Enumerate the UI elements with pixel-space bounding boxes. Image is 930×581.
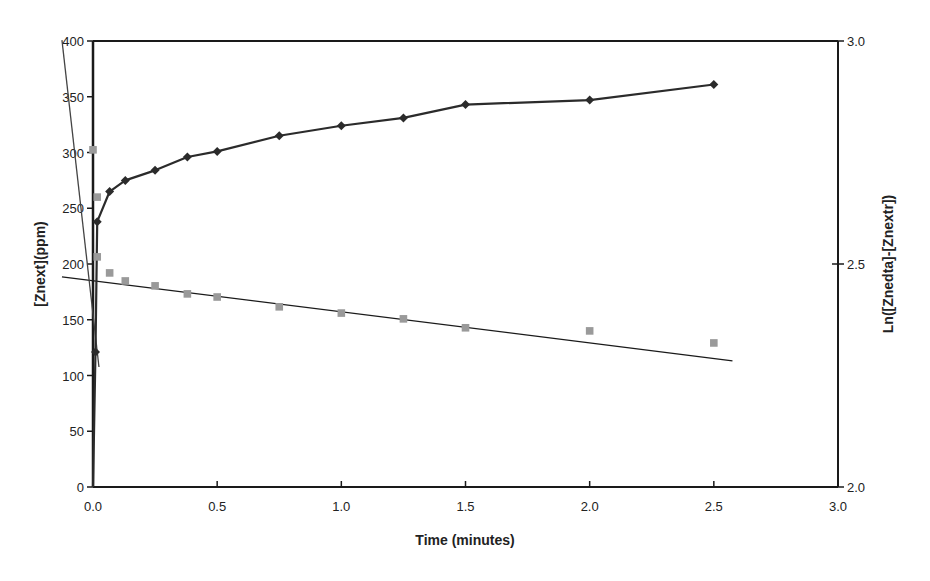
y-tick-label: 200 [62, 257, 84, 272]
square-marker [89, 146, 97, 154]
square-marker [106, 269, 114, 277]
y-tick-label: 50 [70, 424, 84, 439]
y-axis-left-title: [Znext](ppm) [32, 221, 48, 307]
diamond-marker [337, 121, 346, 130]
data-series [89, 80, 718, 487]
y2-tick-label: 2.5 [847, 257, 865, 272]
x-tick-label: 0.0 [84, 499, 102, 514]
x-tick-label: 2.5 [705, 499, 723, 514]
trendlines [62, 40, 733, 367]
square-marker [586, 327, 594, 335]
series-line [93, 84, 714, 487]
square-marker [184, 290, 192, 298]
square-marker [710, 339, 718, 347]
y-axis-right-title: Ln([Znedta]-[Znextr]) [880, 195, 896, 333]
square-marker [462, 324, 470, 332]
square-marker [93, 193, 101, 201]
square-marker [121, 277, 129, 285]
trendline [62, 277, 733, 361]
y-tick-label: 300 [62, 146, 84, 161]
x-tick-label: 3.0 [829, 499, 847, 514]
diamond-marker [399, 113, 408, 122]
x-tick-label: 1.0 [332, 499, 350, 514]
y-tick-label: 400 [62, 34, 84, 49]
y-tick-label: 0 [77, 480, 84, 495]
square-marker [93, 253, 101, 261]
y-tick-label: 350 [62, 90, 84, 105]
y-axis-right: 2.02.53.0 [832, 34, 865, 495]
diamond-marker [183, 152, 192, 161]
x-tick-label: 2.0 [581, 499, 599, 514]
diamond-marker [213, 147, 222, 156]
square-marker [400, 315, 408, 323]
y-axis-left: 050100150200250300350400 [62, 34, 93, 495]
y-tick-label: 150 [62, 313, 84, 328]
square-marker [275, 303, 283, 311]
x-axis-title: Time (minutes) [415, 532, 514, 548]
square-marker [338, 309, 346, 317]
diamond-marker [709, 80, 718, 89]
x-tick-label: 0.5 [208, 499, 226, 514]
chart: 0.00.51.01.52.02.53.0 050100150200250300… [0, 0, 930, 581]
y-tick-label: 100 [62, 369, 84, 384]
diamond-marker [585, 96, 594, 105]
diamond-marker [461, 100, 470, 109]
square-marker [213, 293, 221, 301]
diamond-marker [151, 166, 160, 175]
diamond-marker [275, 131, 284, 140]
x-tick-label: 1.5 [456, 499, 474, 514]
y2-tick-label: 3.0 [847, 34, 865, 49]
square-marker [151, 282, 159, 290]
y2-tick-label: 2.0 [847, 480, 865, 495]
x-axis: 0.00.51.01.52.02.53.0 [84, 481, 847, 514]
